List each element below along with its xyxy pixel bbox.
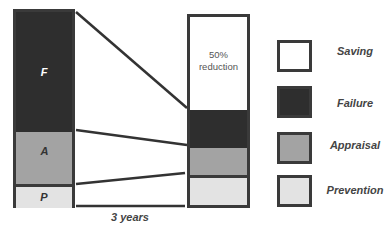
appraisal-connector-line	[76, 130, 187, 145]
appraisal-segment	[190, 148, 247, 175]
saving-percent-text: 50%	[190, 49, 247, 61]
time-axis-label: 3 years	[95, 211, 165, 223]
appraisal-segment-label: A	[17, 145, 72, 157]
after-stacked-bar: 50% reduction	[187, 14, 250, 208]
legend-label-prevention: Prevention	[318, 184, 392, 196]
prevention-connector-line	[76, 173, 185, 184]
legend-swatch-saving	[277, 40, 312, 72]
prevention-segment: P	[16, 184, 72, 208]
prevention-segment-label: P	[16, 191, 72, 203]
failure-segment-label: F	[16, 66, 72, 78]
legend-swatch-failure	[277, 86, 312, 118]
legend-label-saving: Saving	[318, 45, 392, 57]
failure-segment: F	[16, 12, 72, 132]
failure-segment	[190, 110, 247, 148]
legend-swatch-appraisal	[277, 132, 312, 164]
appraisal-segment: A	[16, 132, 72, 184]
failure-connector-line	[76, 12, 187, 108]
saving-reduction-text: reduction	[190, 61, 247, 73]
saving-segment: 50% reduction	[190, 17, 247, 110]
legend-label-failure: Failure	[318, 97, 392, 109]
saving-annotation: 50% reduction	[190, 49, 247, 73]
prevention-segment	[190, 175, 247, 205]
legend-swatch-prevention	[277, 175, 312, 207]
legend-label-appraisal: Appraisal	[318, 139, 392, 151]
before-stacked-bar: F A P	[13, 9, 75, 208]
